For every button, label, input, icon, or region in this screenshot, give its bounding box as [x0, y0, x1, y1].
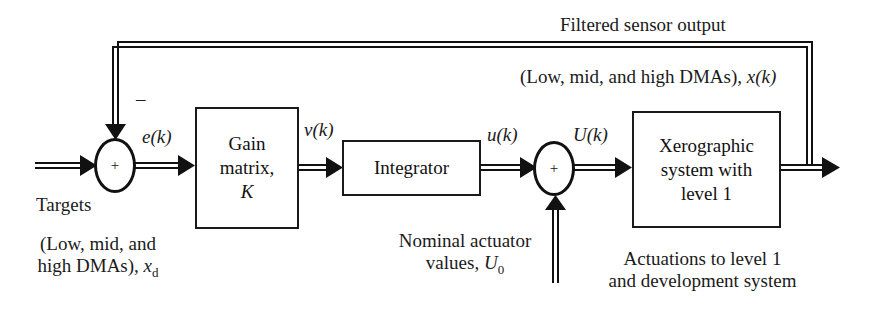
xerographic-system-block: Xerographic system with level 1 [632, 111, 781, 228]
plant-line3: level 1 [659, 182, 754, 206]
feedback-signal-label: (Low, mid, and high DMAs), x(k) [520, 66, 776, 88]
nominal-actuator-label: Nominal actuator values, U0 [385, 230, 545, 281]
integrator-block: Integrator [342, 140, 481, 196]
targets-var: x [144, 255, 152, 276]
feedback-signal-var: x(k) [747, 66, 777, 87]
v-signal-label: ν(k) [304, 119, 334, 141]
feedback-label: Filtered sensor output [560, 14, 726, 36]
plus-sign: + [550, 160, 558, 177]
actuations-label: Actuations to level 1 and development sy… [590, 248, 815, 292]
nominal-line2: values, U0 [385, 252, 545, 281]
integrator-label: Integrator [374, 156, 449, 180]
gain-line1: Gain [220, 132, 274, 156]
nominal-var: U [484, 252, 498, 273]
plus-sign: + [111, 157, 119, 174]
error-signal-label: e(k) [142, 126, 172, 148]
actuations-line1: Actuations to level 1 [590, 248, 815, 270]
targets-desc-text: high DMAs), [37, 255, 143, 276]
plant-line2: system with [659, 158, 754, 182]
gain-matrix-block: Gain matrix, K [195, 107, 299, 229]
targets-desc-line2: high DMAs), xd [28, 255, 168, 284]
U-signal-label: U(k) [573, 124, 608, 146]
nominal-line1: Nominal actuator [385, 230, 545, 252]
summing-junction-2: + [533, 141, 575, 196]
feedback-minus-sign: – [136, 88, 146, 110]
targets-label: Targets [36, 194, 91, 216]
summing-junction-1: + [94, 138, 136, 193]
actuations-line2: and development system [590, 270, 815, 292]
targets-desc: (Low, mid, and high DMAs), xd [28, 233, 168, 284]
nominal-text: values, [426, 252, 484, 273]
nominal-var-sub: 0 [498, 262, 505, 277]
gain-line2: matrix, [220, 156, 274, 180]
u-signal-label: u(k) [487, 124, 518, 146]
feedback-signal-text: (Low, mid, and high DMAs), [520, 66, 747, 87]
targets-var-sub: d [152, 265, 159, 280]
plant-line1: Xerographic [659, 134, 754, 158]
targets-desc-line1: (Low, mid, and [28, 233, 168, 255]
gain-line3: K [220, 180, 274, 204]
